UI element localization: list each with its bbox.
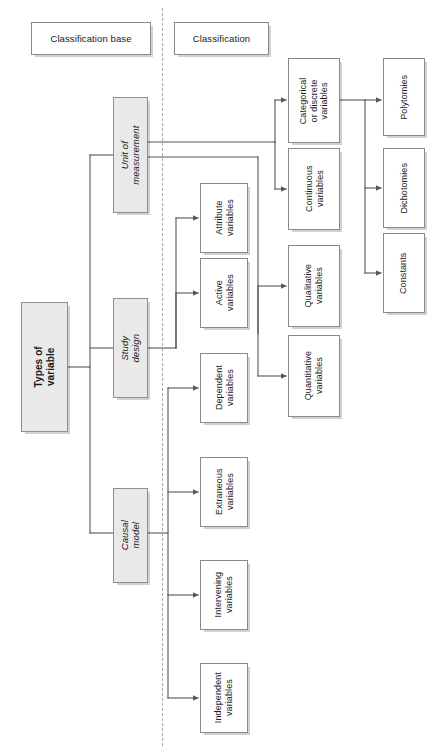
node-extraneous-variables-label: Extraneous variables	[213, 469, 234, 516]
node-quantitative-variables-label: Quantitative variables	[303, 351, 324, 400]
node-active-variables-label: Active variables	[213, 275, 234, 312]
node-types-of-variable: Types of variable	[21, 302, 68, 432]
node-categorical-or-discrete-variables: Categorical or discrete variables	[288, 58, 340, 143]
node-dichotomies: Dichotomies	[383, 148, 425, 228]
node-qualitative-variables: Qualitative variables	[288, 245, 340, 327]
node-intervening-variables-label: Intervening variables	[213, 572, 234, 618]
node-independent-variables-label: Independent variables	[213, 672, 234, 723]
section-divider	[162, 8, 163, 746]
header-classification: Classification	[174, 22, 269, 55]
node-quantitative-variables: Quantitative variables	[288, 335, 340, 417]
node-attribute-variables-label: Attribute variables	[213, 200, 234, 237]
header-classification-base-label: Classification base	[50, 33, 131, 44]
node-unit-of-measurement: Unit of measurement	[113, 97, 148, 213]
header-classification-label: Classification	[193, 33, 250, 44]
node-types-of-variable-label: Types of variable	[33, 345, 57, 390]
node-qualitative-variables-label: Qualitative variables	[303, 264, 324, 308]
node-extraneous-variables: Extraneous variables	[200, 457, 248, 527]
node-causal-model: Causal model	[113, 488, 148, 583]
node-constants-label: Constants	[399, 252, 410, 293]
node-study-design: Study design	[113, 298, 148, 398]
node-independent-variables: Independent variables	[200, 663, 248, 733]
node-unit-of-measurement-label: Unit of measurement	[119, 125, 141, 184]
node-dichotomies-label: Dichotomies	[399, 163, 410, 214]
node-categorical-or-discrete-variables-label: Categorical or discrete variables	[298, 77, 330, 124]
node-intervening-variables: Intervening variables	[200, 560, 248, 630]
node-dependent-variables: Dependent variables	[200, 353, 248, 423]
node-polytomies-label: Polytomies	[399, 74, 410, 119]
node-continuous-variables: Continuous variables	[288, 148, 340, 230]
node-constants: Constants	[383, 233, 425, 313]
node-polytomies: Polytomies	[383, 58, 425, 136]
node-dependent-variables-label: Dependent variables	[213, 366, 234, 411]
node-study-design-label: Study design	[119, 332, 141, 365]
node-continuous-variables-label: Continuous variables	[303, 166, 324, 213]
node-active-variables: Active variables	[200, 258, 248, 328]
diagram-canvas: Classification base Classification Types…	[0, 0, 440, 753]
node-causal-model-label: Causal model	[119, 519, 141, 552]
header-classification-base: Classification base	[31, 22, 151, 55]
node-attribute-variables: Attribute variables	[200, 183, 248, 253]
